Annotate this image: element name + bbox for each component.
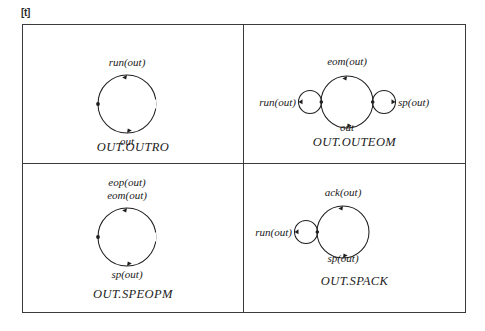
state-cycle-circle	[98, 75, 156, 133]
edge-label-sp-out: sp(out)	[111, 268, 142, 280]
state-cycle-circle-main	[317, 206, 369, 258]
state-node-dot	[96, 102, 100, 106]
state-node-dot	[316, 230, 320, 234]
edge-label-out: out	[340, 121, 354, 133]
state-node-dot-left	[320, 100, 324, 104]
state-cycle-circle	[98, 208, 156, 266]
caption-out-outeom: OUT.OUTEOM	[244, 135, 465, 150]
caption-out-spack: OUT.SPACK	[244, 274, 465, 289]
edge-label-sp-out: sp(out)	[398, 96, 429, 108]
edge-label-eom-out: eom(out)	[327, 55, 367, 67]
figure-frame: run(out) out OUT.OUTRO	[22, 24, 466, 313]
state-node-dot-right	[371, 100, 375, 104]
figure-row-bottom: eop(out) eom(out) sp(out) OUT.SPEOPM	[23, 163, 465, 312]
edge-label-run-out: run(out)	[109, 56, 146, 68]
caption-out-outro: OUT.OUTRO	[23, 140, 243, 155]
diagram-cell-out-outro: run(out) out OUT.OUTRO	[23, 25, 243, 163]
caption-out-speopm: OUT.SPEOPM	[23, 287, 243, 302]
diagram-cell-out-outeom: eom(out) out run(out) sp(out) OUT.OUTEOM	[243, 25, 465, 163]
state-node-dot	[96, 235, 100, 239]
state-diagram-out-spack: ack(out) sp(out) run(out)	[244, 164, 465, 312]
float-placement-marker: [t]	[21, 7, 30, 19]
edge-label-run-out: run(out)	[259, 96, 296, 108]
edge-label-eop-out: eop(out)	[108, 176, 145, 188]
figure-row-top: run(out) out OUT.OUTRO	[23, 25, 465, 163]
diagram-cell-out-speopm: eop(out) eom(out) sp(out) OUT.SPEOPM	[23, 164, 243, 312]
diagram-cell-out-spack: ack(out) sp(out) run(out) OUT.SPACK	[243, 164, 465, 312]
edge-label-sp-out: sp(out)	[327, 252, 358, 264]
edge-label-eom-out: eom(out)	[107, 189, 147, 201]
edge-label-ack-out: ack(out)	[325, 186, 362, 198]
edge-label-run-out: run(out)	[255, 226, 292, 238]
